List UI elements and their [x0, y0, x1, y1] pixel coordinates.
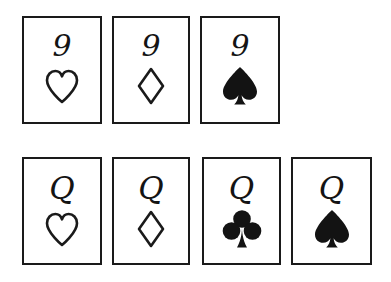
card-suit-pip: [129, 65, 173, 107]
diamond-outline-icon: [131, 209, 171, 249]
card-rank-label: 9: [230, 31, 249, 61]
card-rank-label: 9: [141, 31, 160, 61]
club-filled-icon: [221, 208, 263, 250]
card-suit-pip: [220, 208, 264, 250]
card-illustration-canvas: 9 9 9 Q Q Q Q: [0, 0, 391, 282]
playing-card-9-of-spades: 9: [200, 16, 280, 124]
card-rank-label: 9: [52, 31, 71, 61]
card-rank-label: Q: [319, 173, 344, 204]
card-suit-pip: [129, 208, 173, 250]
playing-card-q-of-spades: Q: [291, 157, 372, 265]
heart-outline-icon: [42, 66, 82, 106]
card-rank-label: Q: [138, 173, 163, 204]
card-suit-pip: [310, 208, 354, 250]
card-suit-pip: [40, 65, 84, 107]
heart-outline-icon: [42, 209, 82, 249]
playing-card-9-of-hearts: 9: [22, 16, 102, 124]
playing-card-9-of-diamonds: 9: [112, 16, 190, 124]
card-rank-label: Q: [229, 173, 254, 204]
playing-card-q-of-clubs: Q: [202, 157, 281, 265]
spade-filled-icon: [312, 208, 352, 250]
card-suit-pip: [218, 65, 262, 107]
card-rank-label: Q: [49, 173, 74, 204]
spade-filled-icon: [220, 65, 260, 107]
card-suit-pip: [40, 208, 84, 250]
playing-card-q-of-hearts: Q: [22, 157, 102, 265]
playing-card-q-of-diamonds: Q: [112, 157, 190, 265]
diamond-outline-icon: [131, 66, 171, 106]
